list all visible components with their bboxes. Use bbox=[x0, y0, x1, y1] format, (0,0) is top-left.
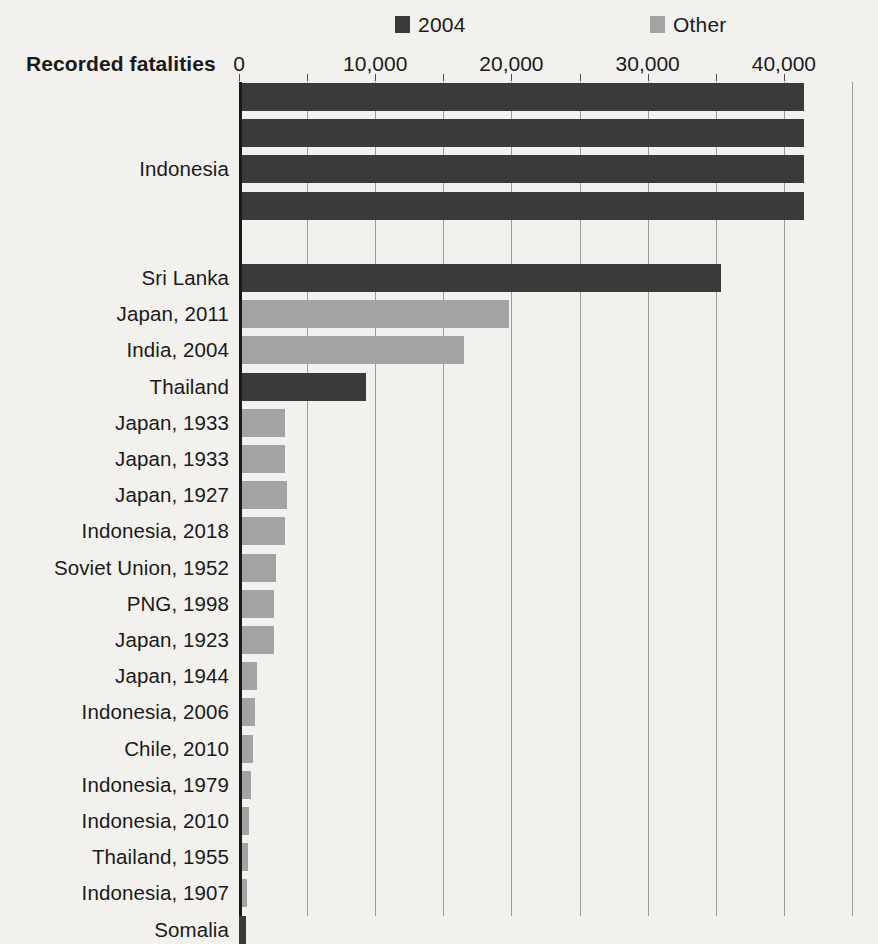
bar[interactable] bbox=[239, 916, 246, 944]
x-tick-label: 30,000 bbox=[616, 52, 680, 76]
bar-row: Japan, 2011 bbox=[239, 300, 878, 328]
x-tick-label: 10,000 bbox=[343, 52, 407, 76]
chart-legend: 2004Other bbox=[0, 14, 878, 44]
bar-row: Indonesia, 2006 bbox=[239, 698, 878, 726]
category-axis-line bbox=[239, 82, 242, 916]
bar-row bbox=[239, 119, 878, 147]
bar-row bbox=[239, 228, 878, 256]
bar-rows: IndonesiaSri LankaJapan, 2011India, 2004… bbox=[239, 82, 878, 916]
x-tick-label: 0 bbox=[233, 52, 245, 76]
bar-row: India, 2004 bbox=[239, 336, 878, 364]
bar[interactable] bbox=[239, 300, 509, 328]
bar-row: Indonesia, 1907 bbox=[239, 879, 878, 907]
category-label: Soviet Union, 1952 bbox=[54, 557, 229, 578]
bar-row: Japan, 1933 bbox=[239, 445, 878, 473]
x-tick-label: 20,000 bbox=[479, 52, 543, 76]
legend-label: 2004 bbox=[418, 14, 466, 35]
bar[interactable] bbox=[239, 554, 276, 582]
bar-row: Japan, 1944 bbox=[239, 662, 878, 690]
category-label: Thailand bbox=[150, 376, 229, 397]
bar[interactable] bbox=[239, 155, 804, 183]
category-label: Indonesia, 2010 bbox=[82, 811, 229, 832]
x-tick-label: 40,000 bbox=[752, 52, 816, 76]
category-label: Indonesia, 1979 bbox=[82, 775, 229, 796]
square-swatch-icon bbox=[395, 16, 410, 33]
bar-row: Thailand bbox=[239, 373, 878, 401]
category-label: India, 2004 bbox=[126, 340, 229, 361]
bar-row: Somalia bbox=[239, 916, 878, 944]
legend-entry-other: Other bbox=[650, 14, 727, 35]
category-label: Indonesia, 1907 bbox=[82, 883, 229, 904]
category-label: Indonesia, 2006 bbox=[82, 702, 229, 723]
category-label: Sri Lanka bbox=[141, 268, 229, 289]
bar[interactable] bbox=[239, 192, 804, 220]
bar-row: Indonesia bbox=[239, 155, 878, 183]
bar[interactable] bbox=[239, 336, 464, 364]
x-tick-mark bbox=[580, 74, 581, 81]
bar-row: Sri Lanka bbox=[239, 264, 878, 292]
category-label: Japan, 1923 bbox=[115, 630, 229, 651]
category-label: Japan, 2011 bbox=[117, 304, 229, 325]
bar[interactable] bbox=[239, 590, 274, 618]
x-axis-ticks bbox=[239, 74, 800, 81]
category-label: Somalia bbox=[154, 919, 229, 940]
bar[interactable] bbox=[239, 517, 285, 545]
square-swatch-icon bbox=[650, 16, 665, 33]
bar[interactable] bbox=[239, 83, 804, 111]
bar-row: Indonesia, 1979 bbox=[239, 771, 878, 799]
legend-label: Other bbox=[673, 14, 727, 35]
x-tick-mark bbox=[784, 74, 785, 81]
bar-row: Japan, 1933 bbox=[239, 409, 878, 437]
category-label: Japan, 1933 bbox=[115, 413, 229, 434]
category-label: Indonesia, 2018 bbox=[82, 521, 229, 542]
category-label: Japan, 1927 bbox=[115, 485, 229, 506]
bar[interactable] bbox=[239, 445, 285, 473]
bar-row: Japan, 1927 bbox=[239, 481, 878, 509]
bar[interactable] bbox=[239, 481, 287, 509]
bar[interactable] bbox=[239, 264, 721, 292]
bar[interactable] bbox=[239, 626, 274, 654]
category-label: Thailand, 1955 bbox=[92, 847, 229, 868]
category-label: Japan, 1933 bbox=[115, 449, 229, 470]
bar-row: Indonesia, 2010 bbox=[239, 807, 878, 835]
bar[interactable] bbox=[239, 373, 366, 401]
x-tick-mark bbox=[511, 74, 512, 81]
bar-row: Thailand, 1955 bbox=[239, 843, 878, 871]
category-label: Chile, 2010 bbox=[124, 738, 229, 759]
x-tick-mark bbox=[443, 74, 444, 81]
bar-row: Soviet Union, 1952 bbox=[239, 554, 878, 582]
bar-row: Chile, 2010 bbox=[239, 735, 878, 763]
legend-entry-2004: 2004 bbox=[395, 14, 466, 35]
x-tick-mark bbox=[239, 74, 240, 81]
x-tick-mark bbox=[648, 74, 649, 81]
plot-area: IndonesiaSri LankaJapan, 2011India, 2004… bbox=[239, 82, 878, 916]
category-label: PNG, 1998 bbox=[127, 594, 229, 615]
category-label: Japan, 1944 bbox=[115, 666, 229, 687]
x-tick-mark bbox=[716, 74, 717, 81]
bar-row bbox=[239, 192, 878, 220]
x-tick-mark bbox=[375, 74, 376, 81]
bar-chart: IndonesiaSri LankaJapan, 2011India, 2004… bbox=[0, 82, 878, 934]
bar-row: Japan, 1923 bbox=[239, 626, 878, 654]
bar-row: PNG, 1998 bbox=[239, 590, 878, 618]
bar-row: Indonesia, 2018 bbox=[239, 517, 878, 545]
bar[interactable] bbox=[239, 119, 804, 147]
x-tick-mark bbox=[307, 74, 308, 81]
bar-row bbox=[239, 83, 878, 111]
bar[interactable] bbox=[239, 409, 285, 437]
category-label: Indonesia bbox=[139, 159, 229, 180]
